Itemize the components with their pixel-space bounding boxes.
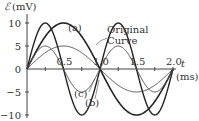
x-axis-unit: (ms) <box>176 71 199 82</box>
annotation-original-line2: Curve <box>107 35 138 46</box>
annotation-b: (b) <box>85 97 99 108</box>
leader-original <box>96 38 107 45</box>
annotation-a: (a) <box>68 22 82 33</box>
y-tick-label: 5 <box>15 41 21 52</box>
y-tick-label: −5 <box>6 87 21 98</box>
x-tick-label: 2.0 <box>166 56 182 67</box>
y-tick-label: 10 <box>8 18 21 29</box>
annotation-original-line1: Original <box>107 24 148 35</box>
y-tick-label: −10 <box>0 110 21 121</box>
x-tick-label: 0.5 <box>57 56 73 67</box>
y-tick-label: 0 <box>15 64 21 75</box>
x-axis-symbol: t <box>181 58 186 69</box>
y-axis-symbol: ℰ <box>4 1 11 12</box>
x-tick-label: 1.0 <box>93 56 109 67</box>
sine-wave-chart: 0.51.01.52.01050−5−10 ℰ (mV) t (ms) (a) … <box>0 0 199 120</box>
y-axis-unit: (mV) <box>12 1 37 12</box>
x-tick-label: 1.5 <box>130 56 146 67</box>
